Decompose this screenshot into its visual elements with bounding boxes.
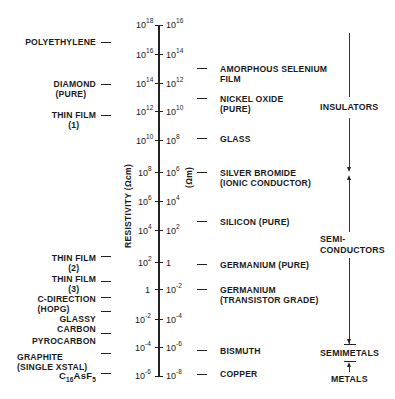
marker-dash (101, 281, 111, 282)
tick-label-ohm-m: 1012 (166, 79, 183, 89)
material-label: COPPER (220, 369, 258, 379)
range-end-bar (344, 344, 356, 345)
material-label: BISMUTH (220, 346, 261, 356)
class-label-semimetals: SEMIMETALS (320, 348, 379, 359)
tick-label-ohm-cm: 10-6 (135, 371, 151, 381)
tick-label-ohm-cm: 1 (145, 285, 150, 295)
axis-tick (155, 262, 163, 263)
insulators-range-line (349, 33, 350, 97)
axis-tick (155, 230, 163, 231)
tick-label-ohm-m: 106 (166, 168, 180, 178)
tick-label-ohm-cm: 108 (138, 168, 152, 178)
material-label: GERMANIUM (TRANSISTOR GRADE) (220, 285, 318, 305)
axis-tick (155, 289, 163, 290)
material-label: THIN FILM (1) (52, 110, 96, 130)
marker-dash (101, 84, 111, 85)
marker-dash (101, 333, 111, 334)
marker-dash (101, 373, 111, 374)
marker-dash (197, 221, 207, 222)
marker-dash (101, 115, 111, 116)
tick-label-ohm-cm: 1012 (136, 107, 153, 117)
axis-tick (155, 172, 163, 173)
material-label: NICKEL OXIDE (PURE) (220, 94, 283, 114)
tick-label-ohm-m: 1010 (166, 107, 183, 117)
tick-label-ohm-cm: 1018 (136, 20, 153, 30)
axis-title-ohm-m: (Ωm) (184, 167, 194, 188)
tick-label-ohm-m: 10-8 (166, 371, 182, 381)
semiconductors-range-line (349, 258, 350, 344)
axis-tick (155, 83, 163, 84)
semiconductors-range-line (349, 180, 350, 232)
marker-dash (197, 374, 207, 375)
tick-label-ohm-cm: 106 (138, 197, 152, 207)
material-label: SILICON (PURE) (220, 217, 290, 227)
material-label: GERMANIUM (PURE) (220, 260, 309, 270)
tick-label-ohm-cm: 1016 (136, 50, 153, 60)
axis-tick (155, 347, 163, 348)
tick-label-ohm-m: 104 (166, 197, 180, 207)
tick-label-ohm-m: 1014 (166, 50, 183, 60)
axis-tick (155, 25, 163, 26)
tick-label-ohm-m: 10-4 (166, 315, 182, 325)
marker-dash (197, 68, 207, 69)
tick-label-ohm-cm: 104 (138, 226, 152, 236)
tick-label-ohm-cm: 10-4 (135, 343, 151, 353)
axis-tick (155, 376, 163, 377)
class-label-metals: METALS (331, 374, 368, 385)
tick-label-ohm-cm: 1014 (136, 79, 153, 89)
material-label-formula: C16AsF5 (59, 371, 96, 385)
class-label-insulators: INSULATORS (320, 102, 378, 113)
marker-dash (197, 264, 207, 265)
marker-dash (197, 138, 207, 139)
insulators-range-line (349, 118, 350, 170)
marker-dash (101, 353, 111, 354)
tick-label-ohm-m: 10-2 (166, 285, 182, 295)
tick-label-ohm-m: 1016 (166, 20, 183, 30)
class-label-semiconductors: SEMI- CONDUCTORS (320, 234, 385, 256)
axis-tick (155, 140, 163, 141)
axis-tick (155, 319, 163, 320)
marker-dash (197, 289, 207, 290)
axis-title-ohm-cm: RESISTIVITY (Ωcm) (123, 164, 133, 248)
tick-label-ohm-cm: 10-2 (135, 315, 151, 325)
tick-label-ohm-m: 102 (166, 226, 180, 236)
material-label: SILVER BROMIDE (IONIC CONDUCTOR) (220, 168, 311, 188)
marker-dash (101, 311, 111, 312)
material-label: THIN FILM (3) (52, 274, 96, 294)
material-label: PYROCARBON (32, 336, 96, 346)
axis-tick (155, 111, 163, 112)
material-label: C-DIRECTION (HOPG) (37, 294, 96, 314)
tick-label-ohm-m: 10-6 (166, 343, 182, 353)
tick-label-ohm-m: 108 (166, 136, 180, 146)
material-label: GLASSY CARBON (57, 314, 96, 334)
marker-dash (101, 42, 111, 43)
material-label: DIAMOND (PURE) (54, 79, 96, 99)
material-label: GLASS (220, 134, 251, 144)
marker-dash (197, 172, 207, 173)
material-label: AMORPHOUS SELENIUM FILM (220, 64, 327, 84)
marker-dash (101, 297, 111, 298)
marker-dash (197, 350, 207, 351)
marker-dash (197, 98, 207, 99)
axis-tick (155, 201, 163, 202)
axis-tick (155, 54, 163, 55)
tick-label-ohm-cm: 102 (138, 258, 152, 268)
tick-label-ohm-cm: 1010 (136, 136, 153, 146)
tick-label-ohm-m: 1 (166, 258, 171, 268)
metals-range-line (349, 366, 350, 372)
material-label: GRAPHITE (SINGLE XSTAL) (17, 352, 87, 372)
material-label: POLYETHYLENE (25, 37, 96, 47)
material-label: THIN FILM (2) (52, 253, 96, 273)
marker-dash (101, 256, 111, 257)
arrow-down-icon (347, 167, 351, 172)
